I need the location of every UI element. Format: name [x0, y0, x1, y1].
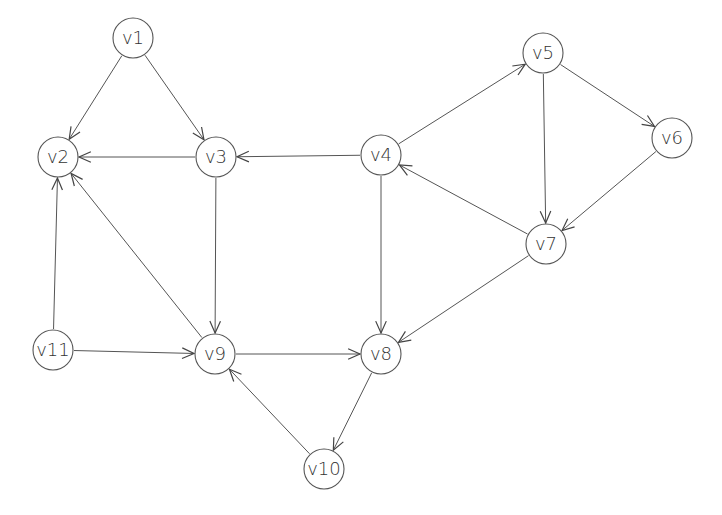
directed-graph: v1v2v3v4v5v6v7v8v9v10v11 [0, 0, 722, 515]
node-label: v2 [47, 146, 69, 167]
edge-v6-to-v7 [562, 152, 656, 231]
node-label: v5 [532, 42, 554, 63]
edge-v4-to-v8 [376, 176, 387, 333]
node-label: v11 [36, 339, 70, 360]
edge-v7-to-v4 [399, 165, 527, 234]
node-label: v6 [661, 127, 683, 148]
node-v2: v2 [38, 137, 78, 177]
edge-v7-to-v8 [398, 256, 528, 343]
node-label: v3 [205, 146, 227, 167]
node-v3: v3 [196, 137, 236, 177]
edge-line [562, 152, 656, 231]
edges-layer [52, 55, 656, 454]
edge-v10-to-v9 [229, 369, 309, 454]
node-label: v1 [122, 27, 144, 48]
node-v9: v9 [195, 334, 235, 374]
edge-line [399, 165, 527, 234]
edge-v4-to-v3 [237, 151, 360, 162]
edge-line [237, 155, 360, 156]
edge-v11-to-v9 [74, 348, 194, 359]
node-label: v10 [307, 458, 341, 479]
edge-line [215, 178, 216, 333]
edge-line [229, 369, 309, 454]
edge-v9-to-v2 [71, 173, 202, 337]
edge-line [71, 173, 202, 337]
edge-v4-to-v5 [399, 64, 525, 144]
edge-line [561, 65, 655, 127]
node-v8: v8 [361, 334, 401, 374]
arrowhead-icon [399, 165, 412, 175]
edge-v11-to-v2 [52, 178, 63, 329]
node-label: v9 [204, 343, 226, 364]
node-v1: v1 [113, 18, 153, 58]
edge-v1-to-v2 [69, 56, 122, 139]
edge-line [333, 373, 371, 450]
node-v7: v7 [526, 224, 566, 264]
edge-v9-to-v8 [236, 349, 360, 360]
edge-v5-to-v6 [561, 65, 655, 127]
node-v10: v10 [304, 449, 344, 489]
edge-line [54, 178, 58, 329]
edge-v5-to-v7 [540, 74, 551, 223]
node-v11: v11 [33, 330, 73, 370]
edge-v8-to-v10 [333, 373, 371, 450]
node-v5: v5 [523, 33, 563, 73]
edge-line [69, 56, 122, 139]
node-v6: v6 [652, 118, 692, 158]
node-v4: v4 [361, 135, 401, 175]
edge-line [543, 74, 545, 223]
edge-line [399, 64, 525, 144]
nodes-layer: v1v2v3v4v5v6v7v8v9v10v11 [33, 18, 692, 489]
edge-line [74, 351, 194, 354]
node-label: v4 [370, 144, 392, 165]
edge-v3-to-v9 [210, 178, 221, 333]
edge-v3-to-v2 [79, 152, 195, 163]
node-label: v8 [370, 343, 392, 364]
edge-v1-to-v3 [145, 55, 204, 140]
edge-line [145, 55, 204, 140]
node-label: v7 [535, 233, 557, 254]
edge-line [398, 256, 528, 343]
